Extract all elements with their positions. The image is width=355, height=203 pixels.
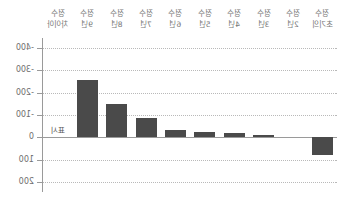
category-name-7: 8년 [102, 19, 131, 30]
ytick-label--100: -100 [16, 111, 34, 119]
tick-0 [37, 137, 43, 138]
category-name-6: 7년 [131, 19, 160, 30]
category-label-7: 정수 8년 [102, 8, 131, 30]
category-label-1: 정수 2년 [278, 8, 307, 30]
bar-7[interactable] [106, 104, 127, 138]
bar-slot-3 [224, 48, 245, 182]
category-prefix-7: 정수 [102, 8, 131, 19]
tick-100 [37, 160, 43, 161]
category-label-8: 정수 9년 [72, 8, 101, 30]
category-name-5: 6년 [161, 19, 190, 30]
tick--100 [37, 115, 43, 116]
category-name-8: 9년 [72, 19, 101, 30]
bar-chart-figure: 정수 초기의 정수 2년 정수 3년 정수 4년 정수 5년 정수 6년 정수 … [0, 0, 355, 203]
category-prefix-8: 정수 [72, 8, 101, 19]
plot-area: -400 -300 -200 -100 0 100 200 표시 [43, 48, 337, 182]
category-name-9: 차이아 [43, 19, 72, 30]
bar-8[interactable] [77, 80, 98, 137]
tick--300 [37, 70, 43, 71]
ytick-label--300: -300 [16, 66, 34, 74]
gridline-200 [43, 182, 337, 183]
category-prefix-0: 정수 [308, 8, 337, 19]
category-label-2: 정수 3년 [249, 8, 278, 30]
bar-slot-1 [283, 48, 304, 182]
bar-slot-8 [77, 48, 98, 182]
category-name-4: 5년 [190, 19, 219, 30]
category-prefix-4: 정수 [190, 8, 219, 19]
tick--400 [37, 48, 43, 49]
bar-4[interactable] [194, 132, 215, 138]
ytick-label--400: -400 [16, 44, 34, 52]
bar-slot-0 [312, 48, 333, 182]
bar-slot-7 [106, 48, 127, 182]
category-name-3: 4년 [219, 19, 248, 30]
category-label-4: 정수 5년 [190, 8, 219, 30]
category-name-2: 3년 [249, 19, 278, 30]
bar-slot-2 [253, 48, 274, 182]
ytick-label-0: 0 [29, 133, 34, 141]
bar-slot-4 [194, 48, 215, 182]
bar-2[interactable] [253, 135, 274, 138]
bar-0[interactable] [312, 137, 333, 155]
category-label-5: 정수 6년 [161, 8, 190, 30]
category-prefix-6: 정수 [131, 8, 160, 19]
ytick-label--200: -200 [16, 89, 34, 97]
category-prefix-5: 정수 [161, 8, 190, 19]
tick-200 [37, 182, 43, 183]
category-axis: 정수 초기의 정수 2년 정수 3년 정수 4년 정수 5년 정수 6년 정수 … [43, 8, 337, 42]
bar-5[interactable] [165, 130, 186, 138]
category-label-6: 정수 7년 [131, 8, 160, 30]
bar-slot-6 [136, 48, 157, 182]
category-prefix-3: 정수 [219, 8, 248, 19]
bar-slot-5 [165, 48, 186, 182]
ytick-label-200: 200 [19, 178, 34, 186]
category-prefix-2: 정수 [249, 8, 278, 19]
bar-series [43, 48, 337, 182]
category-name-0: 초기의 [308, 19, 337, 30]
bar-6[interactable] [136, 118, 157, 137]
category-label-3: 정수 4년 [219, 8, 248, 30]
category-name-1: 2년 [278, 19, 307, 30]
category-prefix-9: 정수 [43, 8, 72, 19]
series-annotation: 표시 [51, 126, 65, 135]
bar-slot-9 [47, 48, 68, 182]
ytick-label-100: 100 [19, 156, 34, 164]
bar-3[interactable] [224, 133, 245, 137]
category-label-0: 정수 초기의 [308, 8, 337, 30]
category-label-9: 정수 차이아 [43, 8, 72, 30]
category-prefix-1: 정수 [278, 8, 307, 19]
tick--200 [37, 93, 43, 94]
